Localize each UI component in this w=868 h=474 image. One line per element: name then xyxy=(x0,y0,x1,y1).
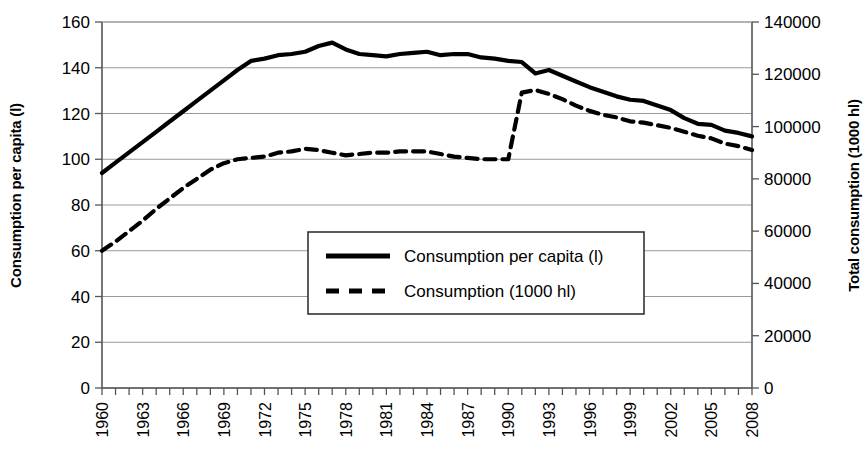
x-axis-tick-label: 1969 xyxy=(216,402,233,438)
y-axis-left-tick-label: 40 xyxy=(71,288,90,307)
y-axis-right-tick-labels: 020000400006000080000100000120000140000 xyxy=(764,13,821,398)
y-axis-right-tick-label: 0 xyxy=(764,379,773,398)
x-axis-tick-label: 1999 xyxy=(622,402,639,438)
y-axis-left-tick-label: 0 xyxy=(81,379,90,398)
y-axis-right-tick-label: 60000 xyxy=(764,222,811,241)
x-axis-tick-label: 1987 xyxy=(460,402,477,438)
x-axis-tick-labels: 1960196319661969197219751978198119841987… xyxy=(94,402,761,438)
data-series xyxy=(102,43,752,251)
y-axis-right-tick-label: 80000 xyxy=(764,170,811,189)
y-axis-left-tick-label: 80 xyxy=(71,196,90,215)
chart-legend: Consumption per capita (l)Consumption (1… xyxy=(308,232,644,314)
x-axis-tick-label: 1963 xyxy=(135,402,152,438)
x-axis-tick-label: 1984 xyxy=(419,402,436,438)
y-axis-left-tick-label: 100 xyxy=(62,150,90,169)
y-axis-right-tick-label: 40000 xyxy=(764,274,811,293)
y-axis-right-tick-label: 100000 xyxy=(764,118,821,137)
x-axis-tick-label: 1978 xyxy=(338,402,355,438)
legend-box xyxy=(308,232,644,314)
y-axis-right-tick-label: 140000 xyxy=(764,13,821,32)
x-axis-tick-label: 1966 xyxy=(175,402,192,438)
x-axis-tick-label: 1981 xyxy=(378,402,395,438)
y-axis-left-tick-label: 120 xyxy=(62,105,90,124)
x-axis-tick-label: 2008 xyxy=(744,402,761,438)
plot-area: 020406080100120140160 020000400006000080… xyxy=(0,0,868,474)
y-axis-right-tick-label: 120000 xyxy=(764,65,821,84)
y-axis-left-tick-label: 20 xyxy=(71,333,90,352)
series-line-1 xyxy=(102,43,752,173)
x-axis-tick-label: 1960 xyxy=(94,402,111,438)
x-axis-tick-label: 1975 xyxy=(297,402,314,438)
x-axis-tick-label: 1990 xyxy=(500,402,517,438)
y-axis-left-tick-label: 60 xyxy=(71,242,90,261)
y-axis-right-tick-label: 20000 xyxy=(764,327,811,346)
x-axis-tick-label: 1972 xyxy=(257,402,274,438)
x-axis-tick-label: 2005 xyxy=(703,402,720,438)
y-axis-left-tick-labels: 020406080100120140160 xyxy=(62,13,90,398)
x-axis-tickmarks xyxy=(102,388,752,395)
chart-container: Consumption per capita (l) Total consump… xyxy=(0,0,868,474)
series-line-2 xyxy=(102,90,752,251)
legend-label: Consumption (1000 hl) xyxy=(404,282,576,301)
x-axis-tick-label: 1993 xyxy=(541,402,558,438)
gridlines xyxy=(102,22,752,388)
y-axis-left-tick-label: 140 xyxy=(62,59,90,78)
y-axis-left-tick-label: 160 xyxy=(62,13,90,32)
legend-label: Consumption per capita (l) xyxy=(404,247,603,266)
x-axis-tick-label: 2002 xyxy=(663,402,680,438)
x-axis-tick-label: 1996 xyxy=(582,402,599,438)
